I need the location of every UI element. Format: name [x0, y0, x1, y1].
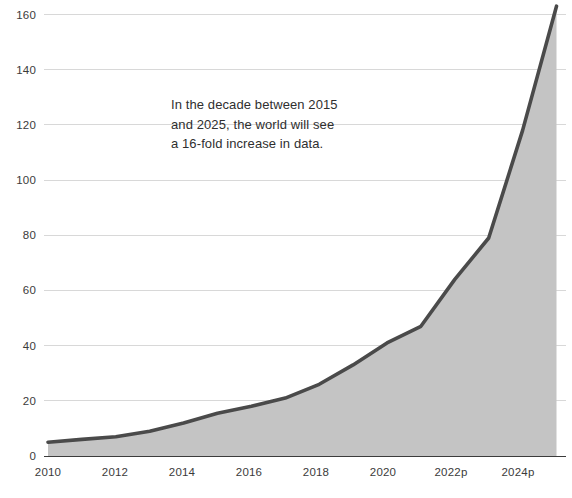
area-fill-series: [48, 6, 557, 456]
y-tick-100: 100: [2, 174, 36, 186]
y-tick-120: 120: [2, 119, 36, 131]
x-tick-2018: 2018: [281, 466, 351, 478]
chart-plot-area: [0, 0, 572, 498]
y-tick-60: 60: [2, 284, 36, 296]
x-tick-2014: 2014: [147, 466, 217, 478]
y-tick-0: 0: [2, 450, 36, 462]
y-tick-40: 40: [2, 340, 36, 352]
x-tick-2016: 2016: [214, 466, 284, 478]
y-tick-20: 20: [2, 395, 36, 407]
annotation-line-3: a 16-fold increase in data.: [171, 134, 361, 154]
chart-annotation-callout: In the decade between 2015 and 2025, the…: [171, 95, 361, 154]
y-tick-140: 140: [2, 64, 36, 76]
chart-container: 160 140 120 100 80 60 40 20 0 2010 2012 …: [0, 0, 572, 498]
x-tick-2012: 2012: [80, 466, 150, 478]
x-tick-2020: 2020: [348, 466, 418, 478]
annotation-line-1: In the decade between 2015: [171, 95, 361, 115]
x-tick-2010: 2010: [13, 466, 83, 478]
annotation-line-2: and 2025, the world will see: [171, 115, 361, 135]
x-tick-2022p: 2022p: [416, 466, 486, 478]
x-tick-2024p: 2024p: [483, 466, 553, 478]
y-tick-160: 160: [2, 9, 36, 21]
y-tick-80: 80: [2, 229, 36, 241]
